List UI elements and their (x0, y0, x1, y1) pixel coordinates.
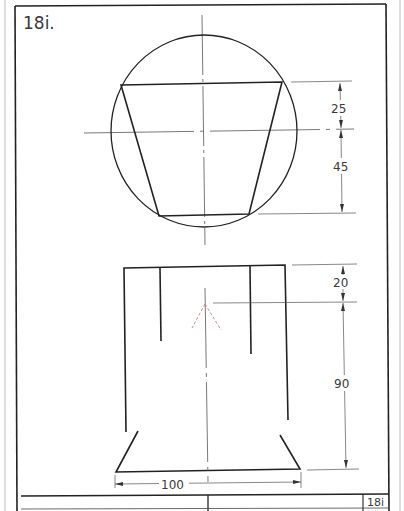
dimension-45: 45 (333, 160, 348, 174)
front-view (115, 264, 359, 491)
title-block-number: 18i (367, 496, 384, 509)
front-view-centerline (205, 288, 208, 482)
front-view-inner-right (250, 266, 251, 354)
figure-label: 18i. (23, 13, 55, 33)
top-view-horizontal-centerline (84, 129, 354, 133)
dimension-25: 25 (331, 102, 346, 116)
paper-edges (5, 0, 400, 511)
front-view-inner-left (160, 268, 161, 341)
top-view-trapezoid (121, 82, 282, 216)
hidden-line-right (205, 304, 221, 330)
technical-drawing-sheet: 18i 18i. 25 45 (0, 0, 404, 511)
front-view-base (116, 431, 300, 472)
dimension-100: 100 (161, 478, 184, 492)
top-view (84, 15, 356, 245)
hidden-line-left (192, 304, 205, 328)
dimension-90: 90 (334, 377, 349, 391)
dimension-20: 20 (333, 276, 348, 290)
drawing-border (15, 4, 389, 511)
top-view-vertical-centerline (202, 15, 205, 245)
title-block (21, 494, 389, 511)
